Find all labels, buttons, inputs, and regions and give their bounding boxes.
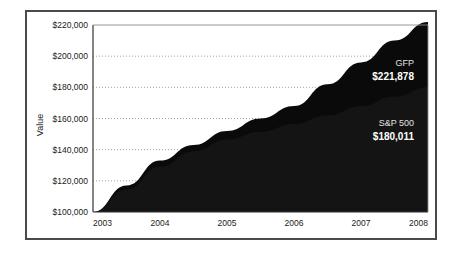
x-tick-label: 2007 (352, 218, 371, 228)
y-tick-label: $220,000 (53, 20, 89, 30)
y-axis-tick-labels: $100,000$120,000$140,000$160,000$180,000… (53, 20, 89, 217)
x-tick-label: 2004 (151, 218, 170, 228)
y-tick-label: $140,000 (53, 145, 89, 155)
x-tick-label: 2003 (93, 218, 112, 228)
series-label-sp500-name: S&P 500 (379, 118, 414, 128)
x-tick-label: 2006 (285, 218, 304, 228)
area-chart: $100,000$120,000$140,000$160,000$180,000… (0, 0, 458, 254)
y-tick-label: $180,000 (53, 82, 89, 92)
y-tick-label: $200,000 (53, 51, 89, 61)
x-tick-label: 2008 (409, 218, 428, 228)
series-label-sp500-value: $180,011 (373, 131, 415, 142)
series-label-gfp-value: $221,878 (372, 71, 414, 82)
x-tick-label: 2005 (218, 218, 237, 228)
y-tick-label: $100,000 (53, 207, 89, 217)
y-tick-label: $160,000 (53, 114, 89, 124)
y-axis-title: Value (35, 114, 45, 136)
x-axis-tick-labels: 200320042005200620072008 (93, 218, 428, 228)
y-tick-label: $120,000 (53, 176, 89, 186)
series-label-gfp-name: GFP (395, 58, 414, 68)
